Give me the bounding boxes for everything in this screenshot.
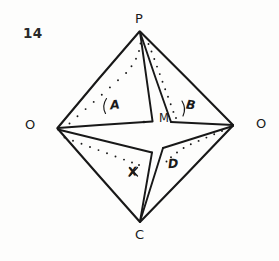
center-point-dot <box>143 121 146 124</box>
flap-label-b: B <box>185 98 196 112</box>
flap-label-x: X <box>127 165 138 178</box>
flap-label-d: D <box>168 158 179 171</box>
vertex-label-c: C <box>135 228 144 241</box>
figure-canvas: 14 P O O C M A B X D <box>0 0 279 261</box>
center-point-label-m: M <box>159 113 169 125</box>
vertex-label-o-left: O <box>25 118 35 131</box>
flap-label-a: A <box>109 99 120 112</box>
edge-O-left-to-P <box>58 32 140 129</box>
figure-number: 14 <box>23 27 42 41</box>
flap-b-angle-arc <box>182 101 185 116</box>
flap-a-angle-arc <box>104 99 107 114</box>
flap-a-fold-edge <box>140 32 153 121</box>
flap-b-base-edge <box>171 122 233 125</box>
vertex-label-p: P <box>135 12 143 25</box>
vertex-label-o-right: O <box>256 117 266 130</box>
flap-a-base-edge <box>58 122 153 129</box>
